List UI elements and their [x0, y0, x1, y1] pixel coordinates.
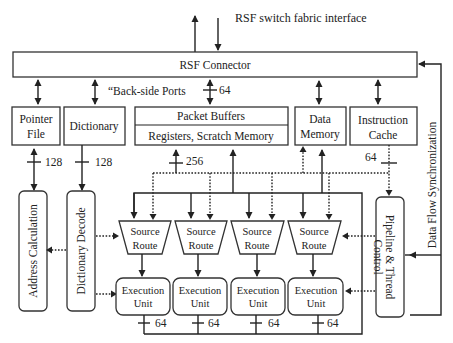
execution-unit-4: Execution Unit [288, 278, 343, 315]
dictionary-decode-label: Dictionary Decode [75, 207, 88, 294]
instr-drop-arrowhead [326, 214, 333, 220]
source-route-label-line2: Route [244, 240, 269, 251]
pointer-width-label: 128 [45, 156, 63, 168]
packet-buffers-label: Packet Buffers [177, 110, 245, 122]
execution-unit-label-line2: Unit [191, 298, 210, 309]
pipeline-to-source-route-arrowhead [342, 233, 348, 240]
execution-unit-label-line2: Unit [134, 298, 153, 309]
execution-unit-label-line1: Execution [179, 285, 222, 296]
instruction-cache-label-line2: Cache [369, 129, 398, 141]
data-memory-label-line1: Data [309, 113, 331, 125]
data-memory-dotted-arrowhead [300, 146, 307, 152]
execution-unit-label-line1: Execution [237, 285, 280, 296]
registers-width-label: 256 [186, 155, 204, 167]
source-route-label-line1: Source [186, 226, 215, 237]
rsf-connector-label: RSF Connector [179, 59, 250, 71]
instruction-cache-label-line1: Instruction [358, 114, 408, 126]
eu-width-label: 64 [208, 317, 220, 329]
dictionary-width-label: 128 [95, 156, 113, 168]
instruction-to-pipeline-arrowhead [386, 190, 393, 196]
eu-width-label: 64 [327, 317, 339, 329]
architecture-diagram: RSF switch fabric interface RSF Connecto… [0, 0, 453, 343]
eu-width-label: 64 [268, 317, 280, 329]
source-route-label-line2: Route [301, 240, 326, 251]
data-flow-sync-label: Data Flow Synchronization [426, 122, 439, 249]
pointer-file-label-line1: Pointer [19, 113, 52, 125]
source-route-4: Source Route [288, 221, 341, 254]
registers-label: Registers, Scratch Memory [148, 130, 274, 143]
fabric-interface-label: RSF switch fabric interface [235, 11, 367, 25]
back-side-width-label: 64 [219, 84, 231, 96]
data-memory-label-line2: Memory [300, 128, 340, 141]
execution-unit-label-line1: Execution [122, 285, 165, 296]
source-route-1: Source Route [119, 221, 171, 254]
execution-unit-2: Execution Unit [173, 278, 227, 315]
execution-unit-label-line1: Execution [295, 285, 338, 296]
instr-drop-arrowhead [207, 214, 214, 220]
source-route-label-line2: Route [132, 240, 157, 251]
execution-unit-label-line2: Unit [249, 298, 268, 309]
instr-drop-arrowhead [150, 214, 157, 220]
decode-to-source-route-arrowhead [113, 233, 119, 240]
source-route-label-line1: Source [299, 226, 328, 237]
source-route-label-line1: Source [242, 226, 271, 237]
execution-unit-3: Execution Unit [231, 278, 285, 315]
source-route-2: Source Route [175, 221, 227, 254]
instr-drop-arrowhead [269, 214, 276, 220]
dictionary-label: Dictionary [69, 120, 118, 133]
pipeline-to-eu-arrowhead [345, 288, 351, 295]
source-route-label-line2: Route [188, 240, 213, 251]
instruction-width-label: 64 [365, 151, 377, 163]
pointer-file-label-line2: File [27, 128, 45, 140]
pipeline-control-label-line2: Control [372, 239, 384, 274]
source-route-3: Source Route [231, 221, 284, 254]
execution-unit-1: Execution Unit [116, 278, 170, 315]
back-side-ports-label: “Back-side Ports [108, 85, 186, 97]
eu-width-label: 64 [155, 317, 167, 329]
address-calculation-label: Address Calculation [27, 204, 39, 298]
execution-unit-label-line2: Unit [307, 298, 326, 309]
source-route-label-line1: Source [130, 226, 159, 237]
